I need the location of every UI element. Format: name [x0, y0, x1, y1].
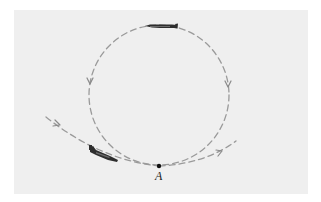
point-a-label: A	[154, 169, 163, 183]
point-a	[157, 164, 161, 168]
loop-diagram: A	[0, 0, 321, 202]
